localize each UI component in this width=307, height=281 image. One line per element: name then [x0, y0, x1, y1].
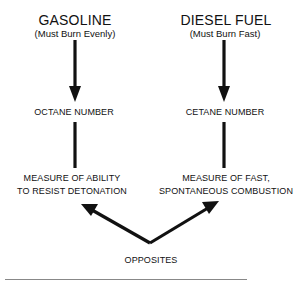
opposites-right-arrow-icon — [150, 201, 219, 243]
diesel-down-arrow-icon — [218, 40, 230, 102]
bottom-rule — [5, 279, 247, 280]
diagram-arrows — [0, 0, 307, 281]
opposites-left-arrow-icon — [81, 204, 150, 243]
gasoline-down-arrow-icon — [69, 40, 81, 102]
